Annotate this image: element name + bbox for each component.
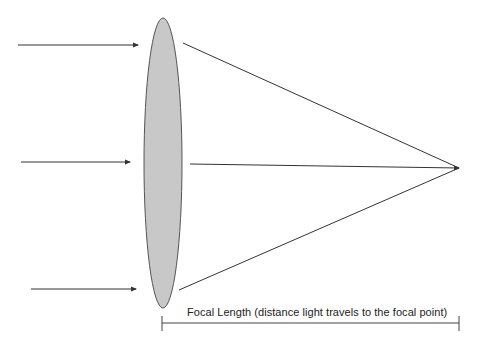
refracted-ray-bottom (179, 168, 459, 290)
convex-lens (144, 18, 182, 308)
diagram-canvas (0, 0, 479, 347)
focal-length-bar (162, 316, 459, 331)
refracted-ray-middle (190, 164, 459, 168)
lens-diagram: Focal Length (distance light travels to … (0, 0, 479, 347)
focal-length-label: Focal Length (distance light travels to … (187, 306, 447, 318)
refracted-ray-top (183, 43, 459, 168)
